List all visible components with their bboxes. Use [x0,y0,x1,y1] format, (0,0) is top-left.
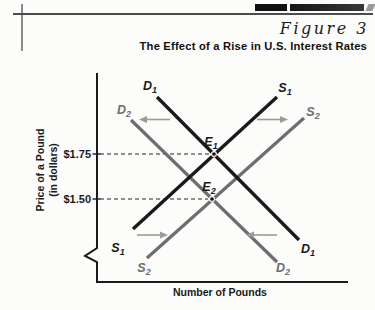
label-d2-top: D2 [117,103,131,119]
label-sub: 2 [145,267,151,277]
supply-demand-chart: D1 S1 D2 S2 E1 E2 S1 S2 D1 D2 $1.75 $1.5… [0,60,375,310]
label-sub: 1 [120,247,125,257]
label-e1: E1 [204,135,217,151]
label-s1-bottom: S1 [111,241,124,257]
header-horizontal-rule [13,13,373,15]
label-sub: 2 [284,267,290,277]
price-tick-175: $1.75 [63,148,91,160]
supply-shift-arrow-upper [257,116,288,123]
y-axis-title-line2: (in dollars) [47,143,59,197]
label-sub: 1 [310,248,315,258]
label-sub: 2 [210,186,216,196]
price-tick-150: $1.50 [63,193,91,205]
equilibrium-point-e1 [212,152,217,157]
decorative-top-bar [255,4,374,11]
arrow-head-right [280,116,288,123]
demand-curve-d1 [157,97,299,240]
label-main: D [276,261,285,275]
supply-shift-arrow-lower [137,232,168,239]
label-main: D [301,242,310,256]
figure-title: The Effect of a Rise in U.S. Interest Ra… [140,40,367,52]
figure-panel: Figure 3 The Effect of a Rise in U.S. In… [0,0,375,310]
label-d1-bottom: D1 [301,242,315,258]
top-bar-segment [290,4,364,11]
header-vertical-rule [21,4,23,51]
label-d2-bottom: D2 [276,261,290,277]
label-sub: 2 [125,109,131,119]
label-e2: E2 [202,180,215,196]
y-axis-title-line1: Price of a Pound [34,129,46,212]
top-bar-segment [255,4,287,11]
label-main: D [117,103,126,117]
top-bar-segment-end [365,4,375,11]
x-axis-title: Number of Pounds [173,286,267,298]
label-main: D [143,79,152,93]
demand-shift-arrow-upper [139,116,170,123]
label-s2-bottom: S2 [137,261,150,277]
arrow-head-right [160,232,168,239]
label-sub: 1 [152,85,157,95]
label-sub: 2 [314,111,320,121]
label-s2-top: S2 [306,105,319,121]
equilibrium-point-e2 [210,197,215,202]
label-sub: 1 [213,141,218,151]
supply-curve-s2 [147,118,304,258]
label-s1-top: S1 [278,81,291,97]
figure-number-label: Figure 3 [280,19,369,38]
label-d1-top: D1 [143,79,157,95]
arrow-head-left [139,116,147,123]
label-sub: 1 [287,87,292,97]
